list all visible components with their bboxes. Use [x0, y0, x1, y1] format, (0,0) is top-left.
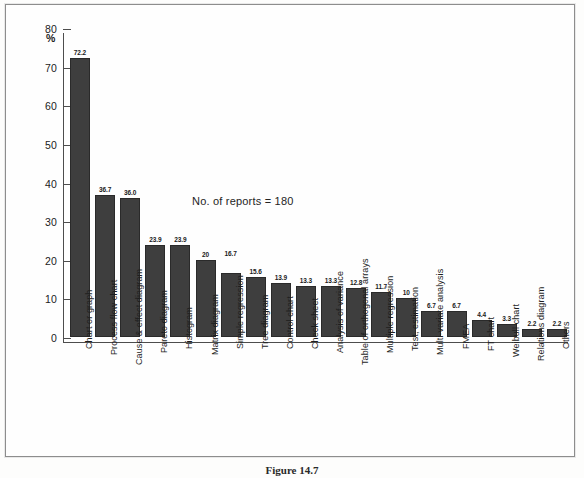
y-tick-label: 50: [27, 139, 57, 151]
y-tick-label: 70: [27, 62, 57, 74]
y-tick-label: 40: [27, 178, 57, 190]
y-tick-label: 10: [27, 293, 57, 305]
x-category-label: Relations diagram: [536, 287, 546, 361]
y-tick-label: 30: [27, 216, 57, 228]
chart-annotation: No. of reports = 180: [192, 195, 294, 207]
x-category-label: Analysis of variance: [335, 271, 345, 353]
bar-value-label: 16.7: [211, 250, 251, 257]
x-category-label: Others: [561, 321, 571, 349]
bar-value-label: 72.2: [60, 49, 100, 56]
x-category-label: Test, estimation: [410, 287, 420, 351]
x-category-label: Multiple regression: [385, 276, 395, 353]
y-tick-label: 80: [27, 23, 57, 35]
x-category-label: Simple regression: [235, 275, 245, 349]
figure-frame: % 01020304050607080 No. of reports = 180…: [5, 4, 575, 457]
x-category-label: Control chart: [285, 296, 295, 349]
x-category-label: Check sheet: [310, 298, 320, 349]
x-category-label: FMEA: [461, 324, 471, 349]
y-tick-mark: [63, 29, 71, 30]
bar-value-label: 23.9: [160, 236, 200, 243]
figure-caption: Figure 14.7: [0, 464, 584, 478]
y-tick-label: 0: [27, 332, 57, 344]
x-category-label: Cause & effect diagram: [134, 269, 144, 365]
bar-value-label: 36.0: [110, 189, 150, 196]
x-category-label: Weibull chart: [511, 304, 521, 357]
x-category-label: Table of orthogonal arrays: [360, 258, 370, 365]
y-tick-label: 20: [27, 255, 57, 267]
y-tick-mark: [63, 338, 71, 339]
x-category-label: Matrix diagram: [210, 294, 220, 355]
y-tick-label: 60: [27, 100, 57, 112]
y-axis-line: [63, 33, 64, 343]
scanned-page: % 01020304050607080 No. of reports = 180…: [0, 0, 584, 478]
x-category-label: Multi-variate analysis: [435, 269, 445, 355]
x-category-label: FT chart: [486, 317, 496, 351]
x-category-label: Process flow chart: [109, 280, 119, 355]
x-category-label: Tree diagram: [260, 295, 270, 349]
x-category-label: Histogram: [184, 307, 194, 349]
x-category-label: Chart or graph: [84, 290, 94, 349]
x-category-label: Pareto diagram: [159, 290, 169, 353]
